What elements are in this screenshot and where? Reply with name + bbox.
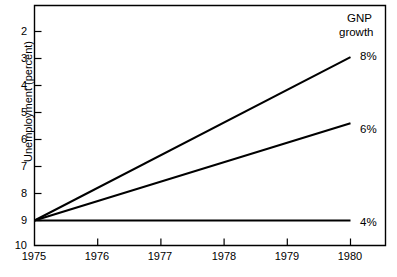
series-label-6pct: 6%: [360, 124, 377, 136]
y-axis-title: Unemployment (percent): [23, 27, 34, 177]
ytick-label-9: 9: [5, 215, 27, 226]
x-axis-ticks: [98, 239, 351, 246]
xtick-label-1975: 1975: [11, 251, 57, 262]
series-label-4pct: 4%: [360, 217, 377, 229]
legend-title-line2: growth: [339, 26, 374, 40]
axis-frame: [35, 6, 386, 246]
xtick-label-1980: 1980: [327, 251, 373, 262]
xtick-label-1979: 1979: [264, 251, 310, 262]
data-series-group: [35, 57, 351, 220]
ytick-label-8: 8: [5, 188, 27, 199]
series-label-8pct: 8%: [360, 51, 377, 63]
chart-figure: 2 3 4 5 6 7 8 9 10 1975 1976 1977 1978 1…: [0, 0, 397, 277]
y-axis-ticks: [35, 32, 42, 221]
chart-plot-area: [0, 0, 397, 277]
xtick-label-1977: 1977: [137, 251, 183, 262]
xtick-label-1976: 1976: [74, 251, 120, 262]
xtick-label-1978: 1978: [201, 251, 247, 262]
legend-title-line1: GNP: [347, 12, 372, 26]
